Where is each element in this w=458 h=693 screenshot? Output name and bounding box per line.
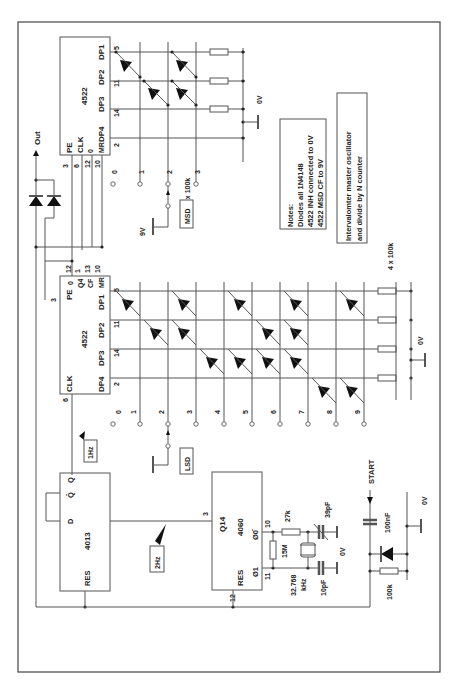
svg-text:4522 INH connected to 0V: 4522 INH connected to 0V bbox=[306, 135, 315, 227]
svg-text:5: 5 bbox=[113, 46, 120, 50]
svg-text:0: 0 bbox=[87, 149, 94, 153]
start-label: START bbox=[367, 459, 376, 484]
svg-text:1: 1 bbox=[130, 410, 137, 414]
svg-text:0: 0 bbox=[115, 410, 122, 414]
svg-text:4522 MSD CF to 9V: 4522 MSD CF to 9V bbox=[316, 159, 325, 227]
start-circuit: START 100nF 100k 0V bbox=[363, 459, 428, 607]
c39p-label: 39pF bbox=[324, 501, 332, 518]
ground-label-osc: 0V bbox=[339, 547, 346, 556]
c100n-label: 100nF bbox=[384, 512, 391, 533]
svg-text:DP2: DP2 bbox=[97, 69, 106, 85]
svg-text:3: 3 bbox=[194, 170, 201, 174]
svg-text:Q: Q bbox=[66, 477, 75, 483]
svg-text:MR: MR bbox=[98, 142, 105, 153]
crystal-frequency: 32.768 bbox=[290, 574, 297, 596]
r27k-label: 27k bbox=[284, 510, 291, 522]
svg-text:4013: 4013 bbox=[83, 532, 92, 550]
ground-label-msd: 0V bbox=[256, 95, 263, 104]
svg-text:3: 3 bbox=[50, 298, 57, 302]
svg-text:D: D bbox=[66, 518, 75, 524]
svg-text:0: 0 bbox=[67, 281, 74, 285]
msd-label: MSD bbox=[184, 208, 191, 224]
svg-text:6: 6 bbox=[73, 164, 80, 168]
svg-text:3: 3 bbox=[186, 410, 193, 414]
lsd-ic-label: 4522 bbox=[80, 330, 89, 348]
svg-text:1: 1 bbox=[138, 170, 145, 174]
svg-text:2: 2 bbox=[158, 410, 165, 414]
circuit-diagram: 4522 PE CLK 0 MR DP1 DP2 DP3 DP4 5 11 14… bbox=[0, 0, 458, 693]
svg-text:6: 6 bbox=[270, 410, 277, 414]
msd-diode-matrix: 0V 3 x 100k bbox=[110, 42, 263, 205]
oscillator-4060: 3 Q14 4060 RES Ø0̄ Ø1 10 11 12 bbox=[202, 472, 271, 602]
crystal-oscillator-network: 15M 27k 32.768 kHz 39pF 10pF 0V bbox=[262, 501, 346, 596]
svg-text:CF: CF bbox=[87, 278, 94, 288]
svg-text:11: 11 bbox=[264, 572, 271, 580]
r100k-label: 100k bbox=[386, 584, 393, 600]
svg-text:11: 11 bbox=[113, 320, 120, 328]
svg-text:DP1: DP1 bbox=[97, 294, 106, 310]
svg-text:Q14: Q14 bbox=[218, 516, 227, 532]
tag-1hz: 1Hz bbox=[79, 431, 97, 462]
svg-text:Q̄: Q̄ bbox=[66, 492, 75, 498]
svg-text:12: 12 bbox=[84, 160, 91, 168]
svg-text:10: 10 bbox=[264, 520, 271, 528]
svg-text:CLK: CLK bbox=[65, 375, 74, 392]
svg-text:10: 10 bbox=[94, 265, 101, 273]
svg-text:13: 13 bbox=[84, 265, 91, 273]
r15m-label: 15M bbox=[281, 544, 288, 558]
svg-text:2: 2 bbox=[166, 170, 173, 174]
lsd-rotary-switch: 0 1 2 3 4 5 6 7 8 9 LSD bbox=[111, 410, 366, 474]
svg-text:Intervalomter master oscillato: Intervalomter master oscillator bbox=[344, 131, 353, 241]
tag-2hz: 2Hz bbox=[150, 524, 166, 572]
svg-text:2: 2 bbox=[113, 143, 120, 147]
svg-text:7: 7 bbox=[298, 410, 305, 414]
msd-counter-4522: 4522 PE CLK 0 MR DP1 DP2 DP3 DP4 5 11 14… bbox=[60, 37, 120, 280]
svg-text:Ø1: Ø1 bbox=[251, 567, 260, 577]
svg-text:1Hz: 1Hz bbox=[87, 446, 94, 459]
svg-text:2Hz: 2Hz bbox=[154, 556, 161, 569]
c10p-label: 10pF bbox=[320, 579, 328, 596]
svg-text:PE: PE bbox=[65, 289, 74, 300]
svg-text:DP4: DP4 bbox=[97, 126, 106, 142]
svg-text:RES: RES bbox=[83, 571, 92, 586]
notes-box: Notes: Diodes all 1N4148 4522 INH connec… bbox=[280, 119, 326, 229]
svg-text:Diodes all 1N4148: Diodes all 1N4148 bbox=[296, 163, 305, 227]
svg-text:DP2: DP2 bbox=[97, 322, 106, 338]
ground-label-start: 0V bbox=[421, 496, 428, 505]
svg-text:RES: RES bbox=[236, 569, 245, 586]
crystal-unit: kHz bbox=[300, 578, 307, 591]
svg-text:10: 10 bbox=[94, 160, 101, 168]
svg-text:Q4: Q4 bbox=[77, 279, 85, 288]
svg-text:6: 6 bbox=[62, 398, 69, 402]
svg-text:0: 0 bbox=[111, 170, 118, 174]
svg-text:12: 12 bbox=[65, 265, 72, 273]
svg-text:5: 5 bbox=[242, 410, 249, 414]
svg-text:14: 14 bbox=[113, 109, 120, 117]
svg-text:14: 14 bbox=[113, 349, 120, 357]
svg-text:DP3: DP3 bbox=[97, 350, 106, 366]
svg-text:CLK: CLK bbox=[76, 136, 85, 153]
svg-text:MR: MR bbox=[98, 277, 105, 288]
out-label: Out bbox=[33, 131, 42, 145]
svg-text:DP1: DP1 bbox=[97, 44, 106, 60]
flipflop-4013: Q Q̄ D 4013 RES bbox=[46, 473, 110, 609]
svg-text:3: 3 bbox=[202, 512, 209, 516]
svg-text:1: 1 bbox=[74, 269, 81, 273]
msd-ic-label: 4522 bbox=[80, 87, 89, 105]
svg-text:DP4: DP4 bbox=[97, 376, 106, 392]
lsd-counter-4522: 4522 PE 0 Q4 CF MR CLK DP1 DP2 DP3 DP4 3… bbox=[45, 259, 120, 475]
svg-text:2: 2 bbox=[113, 382, 120, 386]
svg-text:4060: 4060 bbox=[236, 518, 245, 536]
svg-text:PE: PE bbox=[65, 142, 74, 153]
svg-text:and divide by N counter: and divide by N counter bbox=[355, 156, 364, 241]
svg-text:9: 9 bbox=[354, 410, 361, 414]
svg-text:8: 8 bbox=[326, 410, 333, 414]
supply-9v-label: 9V bbox=[139, 227, 146, 236]
lsd-diode-matrix: 0V 4 x 100k bbox=[110, 243, 425, 424]
svg-text:Notes:: Notes: bbox=[286, 204, 295, 227]
svg-text:DP3: DP3 bbox=[97, 96, 106, 112]
lsd-label: LSD bbox=[184, 457, 191, 471]
caption-box: Intervalomter master oscillator and divi… bbox=[337, 93, 367, 243]
lsd-resistor-label: 4 x 100k bbox=[387, 243, 394, 270]
svg-text:4: 4 bbox=[214, 410, 221, 414]
